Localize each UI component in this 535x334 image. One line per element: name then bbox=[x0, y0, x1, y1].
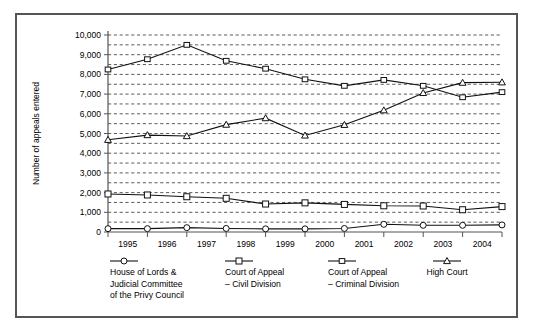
x-axis-tick-label: 2001 bbox=[355, 239, 374, 249]
series-line-3 bbox=[108, 45, 502, 97]
line-chart: 01,0002,0003,0004,0005,0006,0007,0008,00… bbox=[17, 15, 516, 316]
data-point-series-3 bbox=[105, 67, 111, 72]
x-axis-tick-label: 2004 bbox=[473, 239, 492, 249]
y-axis-tick-label: 1,000 bbox=[80, 207, 102, 217]
data-point-series-3 bbox=[184, 42, 190, 47]
legend-marker-2 bbox=[236, 258, 242, 264]
legend-label-1: of the Privy Council bbox=[110, 290, 184, 300]
y-axis-tick-label: 9,000 bbox=[80, 50, 102, 60]
data-point-series-3 bbox=[302, 77, 308, 82]
y-axis-tick-label: 10,000 bbox=[75, 30, 101, 40]
data-point-series-2 bbox=[302, 200, 308, 206]
data-point-series-1 bbox=[184, 225, 190, 231]
x-axis-tick-label: 2000 bbox=[315, 239, 334, 249]
data-point-series-1 bbox=[263, 226, 269, 232]
data-point-series-1 bbox=[341, 225, 347, 231]
data-point-series-2 bbox=[460, 207, 466, 213]
data-point-series-1 bbox=[144, 226, 150, 232]
data-point-series-3 bbox=[420, 83, 426, 88]
x-axis-tick-label: 1995 bbox=[118, 239, 137, 249]
x-axis-tick-label: 1997 bbox=[197, 239, 216, 249]
data-point-series-4 bbox=[380, 107, 387, 113]
chart-plot-container: 01,0002,0003,0004,0005,0006,0007,0008,00… bbox=[17, 15, 516, 316]
data-point-series-1 bbox=[460, 222, 466, 228]
data-point-series-1 bbox=[105, 226, 111, 232]
chart-figure-frame: 01,0002,0003,0004,0005,0006,0007,0008,00… bbox=[15, 13, 518, 318]
x-axis-tick-label: 1999 bbox=[276, 239, 295, 249]
data-point-series-2 bbox=[499, 204, 505, 210]
data-point-series-2 bbox=[184, 194, 190, 200]
y-axis-tick-label: 2,000 bbox=[80, 188, 102, 198]
y-axis-tick-label: 7,000 bbox=[80, 89, 102, 99]
data-point-series-3 bbox=[263, 66, 269, 71]
legend-label-3: – Criminal Division bbox=[328, 279, 399, 289]
data-point-series-3 bbox=[460, 95, 466, 100]
x-axis-tick-label: 1998 bbox=[236, 239, 255, 249]
x-axis-tick-label: 2002 bbox=[394, 239, 413, 249]
data-point-series-1 bbox=[381, 221, 387, 227]
data-point-series-3 bbox=[381, 78, 387, 83]
data-point-series-2 bbox=[381, 203, 387, 209]
data-point-series-2 bbox=[144, 192, 150, 198]
data-point-series-3 bbox=[223, 58, 229, 63]
legend-label-1: House of Lords & bbox=[110, 267, 177, 277]
y-axis-tick-label: 3,000 bbox=[80, 168, 102, 178]
x-axis-tick-label: 1996 bbox=[158, 239, 177, 249]
data-point-series-3 bbox=[499, 90, 505, 95]
data-point-series-1 bbox=[499, 222, 505, 228]
legend-marker-3 bbox=[339, 259, 345, 264]
data-point-series-3 bbox=[145, 57, 151, 62]
legend-label-1: Judicial Committee bbox=[110, 279, 183, 289]
data-point-series-2 bbox=[223, 195, 229, 201]
data-point-series-1 bbox=[223, 225, 229, 231]
data-point-series-2 bbox=[420, 203, 426, 209]
x-axis-tick-label: 2003 bbox=[433, 239, 452, 249]
y-axis-tick-label: 4,000 bbox=[80, 148, 102, 158]
data-point-series-2 bbox=[263, 201, 269, 207]
data-point-series-2 bbox=[341, 201, 347, 207]
data-point-series-2 bbox=[105, 191, 111, 197]
legend-label-2: – Civil Division bbox=[225, 279, 281, 289]
data-point-series-1 bbox=[302, 226, 308, 232]
y-axis-tick-label: 6,000 bbox=[80, 109, 102, 119]
y-axis-tick-label: 8,000 bbox=[80, 69, 102, 79]
y-axis-tick-label: 0 bbox=[96, 227, 101, 237]
legend-label-4: High Court bbox=[426, 267, 468, 277]
legend-label-2: Court of Appeal bbox=[225, 267, 284, 277]
data-point-series-1 bbox=[420, 222, 426, 228]
legend-label-3: Court of Appeal bbox=[328, 267, 387, 277]
data-point-series-3 bbox=[342, 83, 348, 88]
y-axis-tick-label: 5,000 bbox=[80, 129, 102, 139]
data-point-series-4 bbox=[262, 115, 269, 121]
y-axis-title: Number of appeals entered bbox=[31, 82, 41, 185]
legend-marker-1 bbox=[121, 258, 127, 264]
